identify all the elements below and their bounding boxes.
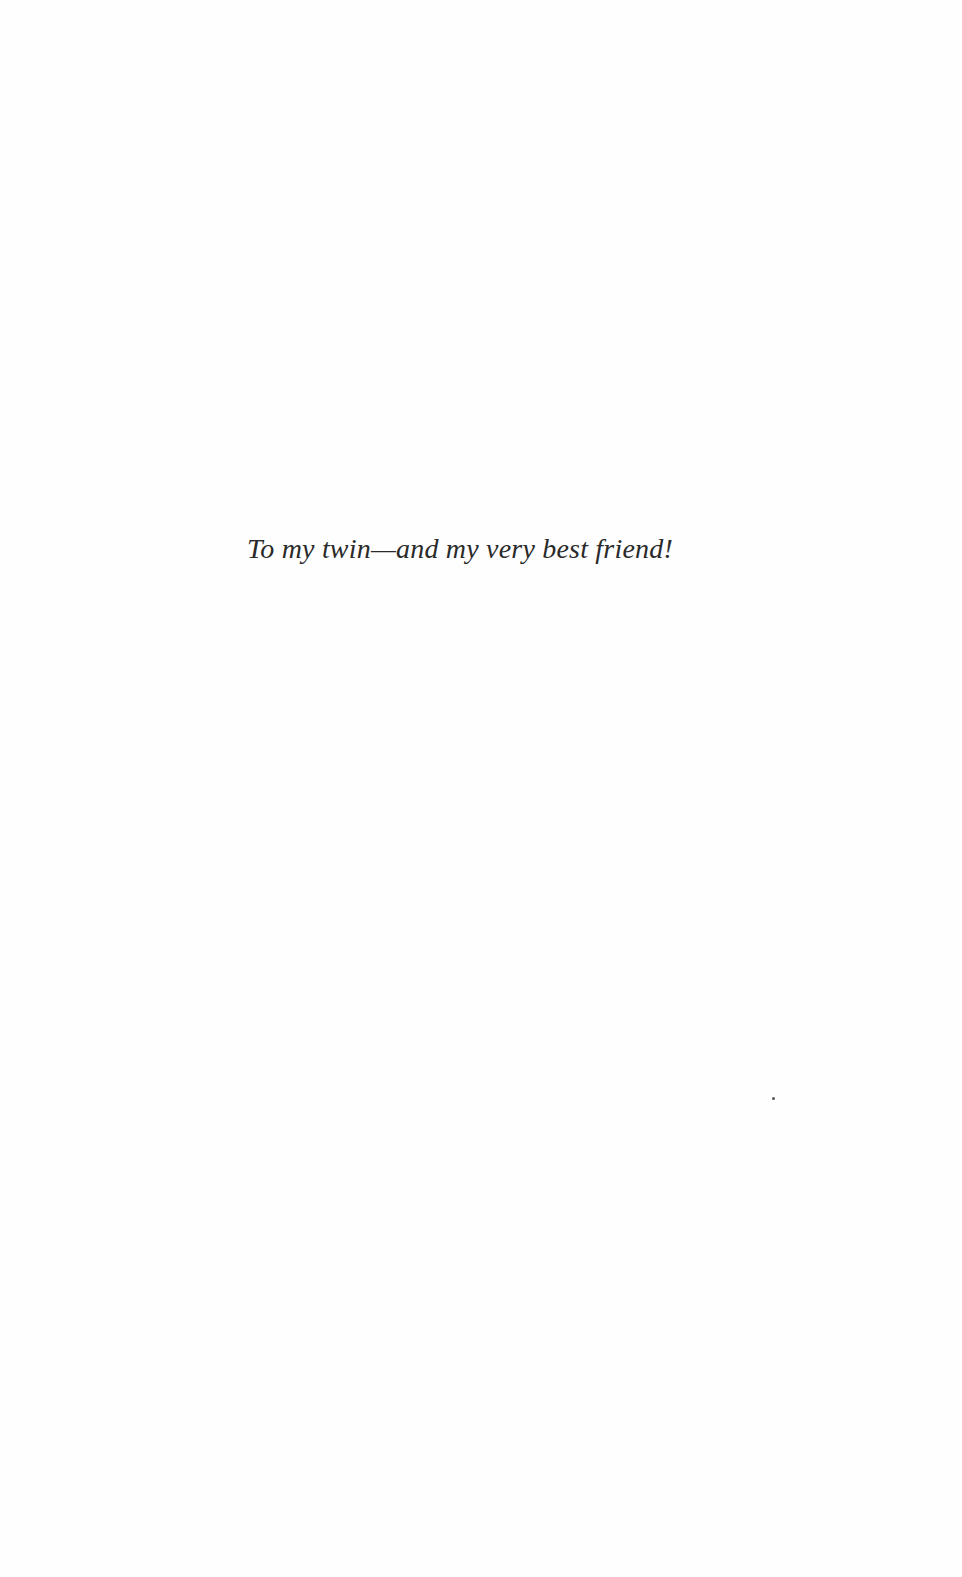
dedication-text: To my twin—and my very best friend!: [0, 533, 920, 565]
book-page: To my twin—and my very best friend!: [0, 0, 962, 1577]
scan-speck: [772, 1097, 775, 1100]
